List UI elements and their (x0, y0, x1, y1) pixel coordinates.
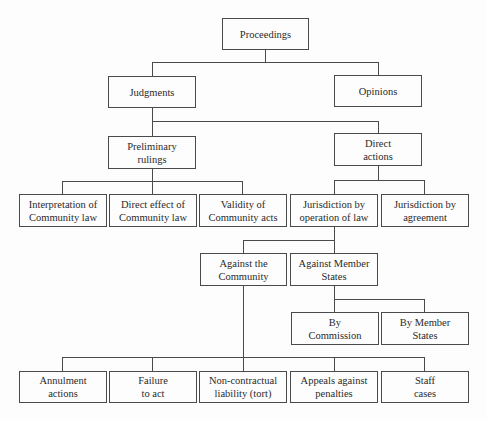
connector (62, 357, 63, 371)
connector (62, 181, 63, 194)
proceedings-diagram: Proceedings Judgments Opinions Prelimina… (0, 0, 487, 421)
connector (424, 180, 425, 194)
connector (265, 49, 266, 62)
node-judgments: Judgments (108, 76, 196, 108)
node-against-community: Against the Community (200, 253, 287, 286)
node-direct-actions: Direct actions (334, 133, 422, 166)
connector (62, 357, 425, 358)
connector (152, 62, 153, 76)
node-appeals: Appeals against penalties (290, 371, 378, 403)
connector (334, 180, 335, 194)
connector (243, 240, 244, 253)
node-by-member-states: By Member States (381, 312, 469, 345)
connector (152, 357, 153, 371)
node-failure: Failure to act (109, 371, 197, 403)
node-direct-effect: Direct effect of Community law (109, 194, 197, 227)
connector (152, 121, 379, 122)
node-jurisdiction-operation: Jurisdiction by operation of law (290, 194, 378, 227)
node-by-commission: By Commission (291, 312, 379, 345)
connector (152, 62, 379, 63)
connector (378, 62, 379, 75)
node-jurisdiction-agreement: Jurisdiction by agreement (381, 194, 469, 227)
node-opinions: Opinions (334, 75, 422, 107)
node-against-member-states: Against Member States (290, 253, 378, 286)
node-proceedings: Proceedings (222, 18, 309, 50)
connector (334, 180, 425, 181)
connector (334, 357, 335, 371)
connector (378, 121, 379, 133)
node-validity: Validity of Community acts (199, 194, 287, 227)
connector (378, 165, 379, 180)
connector (62, 181, 243, 182)
node-staff: Staff cases (381, 371, 469, 403)
connector (243, 240, 335, 241)
node-annulment: Annulment actions (19, 371, 107, 403)
node-non-contractual: Non-contractual liability (tort) (199, 371, 287, 403)
node-preliminary-rulings: Preliminary rulings (108, 136, 196, 169)
connector (424, 299, 425, 312)
node-interpretation: Interpretation of Community law (19, 194, 107, 227)
connector (243, 285, 244, 371)
connector (424, 357, 425, 371)
connector (334, 299, 425, 300)
connector (242, 181, 243, 194)
